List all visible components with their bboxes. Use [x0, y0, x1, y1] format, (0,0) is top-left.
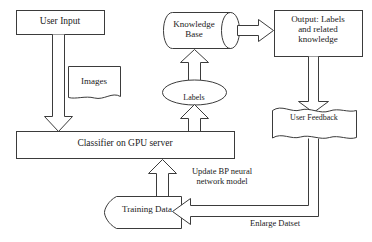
node-output-shape — [275, 11, 363, 57]
node-labels-shape — [163, 80, 227, 105]
node-classifier-shape — [17, 132, 235, 159]
node-images-shape — [69, 67, 121, 99]
edge-knowledge-base-to-output — [238, 20, 274, 42]
node-training-data-shape — [105, 197, 182, 229]
diagram-canvas: User Input Images Knowledge Base Output:… — [0, 0, 372, 242]
node-user-feedback-shape — [273, 108, 357, 138]
node-user-input-shape — [17, 11, 105, 35]
edge-training-data-to-classifier — [149, 160, 177, 197]
diagram-vector-layer — [0, 0, 372, 242]
node-knowledge-base-shape — [164, 13, 240, 49]
edge-labels-to-knowledge-base — [181, 50, 209, 82]
edge-classifier-to-labels — [181, 105, 209, 133]
edge-output-to-user-feedback — [299, 57, 329, 113]
